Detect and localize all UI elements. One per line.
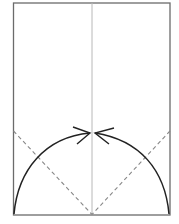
fold-diagram (0, 0, 179, 224)
